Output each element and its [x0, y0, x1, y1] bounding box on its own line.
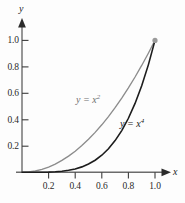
y-tick-label-0-6: 0.6 [0, 88, 19, 98]
x-tick-label-1-0: 1.0 [143, 181, 167, 191]
y-tick-label-0-4: 0.4 [0, 115, 19, 125]
y-axis-arrow-icon [18, 18, 26, 28]
curve-y-equals-x-squared [22, 40, 155, 172]
x-tick-label-0-6: 0.6 [90, 181, 114, 191]
y-axis-label: y [19, 3, 23, 14]
y-tick-label-0-8: 0.8 [0, 62, 19, 72]
curve-label-x-fourth-base: y = x [120, 118, 141, 129]
x-axis-arrow-icon [162, 168, 172, 176]
curve-label-x-squared-exponent: 2 [97, 93, 100, 100]
curve-y-equals-x-fourth [22, 40, 155, 172]
intersection-point-marker [152, 38, 157, 43]
x-axis-ticks [49, 172, 155, 178]
y-axis-ticks [22, 40, 29, 146]
curve-label-x-fourth-exponent: 4 [141, 117, 144, 124]
x-axis-label: x [173, 166, 177, 177]
figure-container: 1.0 0.8 0.6 0.4 0.2 0.2 0.4 0.6 0.8 1.0 … [0, 0, 185, 203]
y-tick-label-0-2: 0.2 [0, 141, 19, 151]
y-tick-label-1-0: 1.0 [0, 35, 19, 45]
x-tick-label-0-4: 0.4 [63, 181, 87, 191]
curve-label-x-squared: y = x2 [76, 94, 100, 105]
curve-label-x-fourth: y = x4 [120, 118, 144, 129]
curve-label-x-squared-base: y = x [76, 94, 97, 105]
x-tick-label-0-8: 0.8 [116, 181, 140, 191]
x-tick-label-0-2: 0.2 [37, 181, 61, 191]
